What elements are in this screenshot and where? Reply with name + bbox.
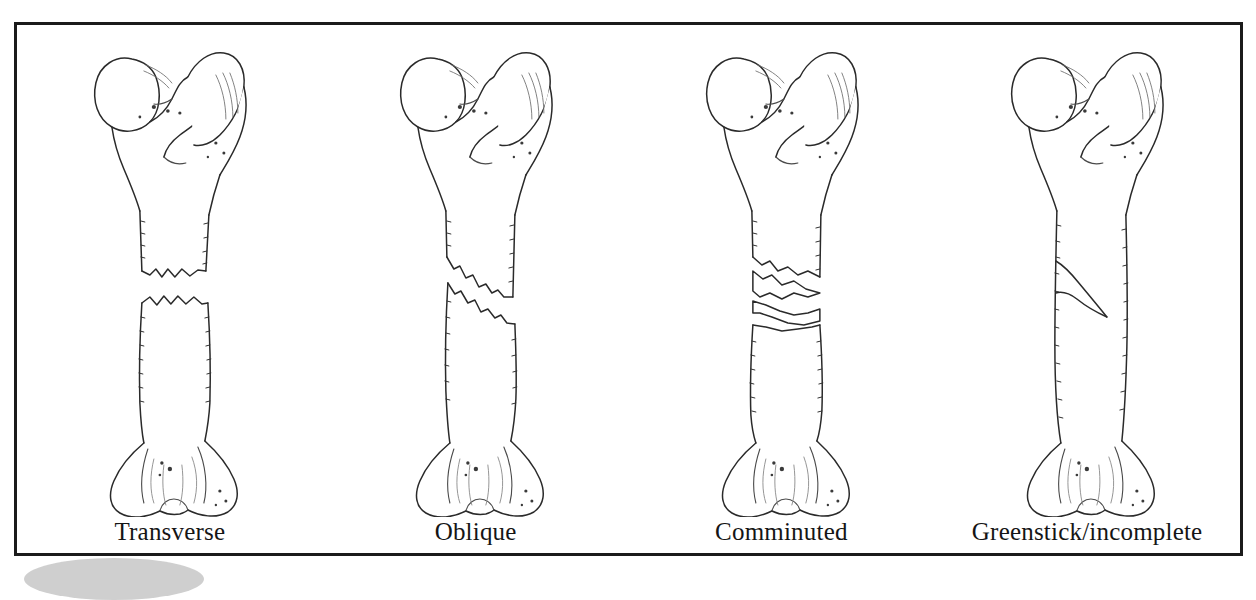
bone-fragment-wedge-lower (752, 301, 819, 325)
femur-shaft-lower-fragment (749, 325, 822, 443)
bone-fragment-wedge-upper (752, 271, 819, 299)
femur-shaft-upper-fragment (446, 211, 515, 297)
bone-row: Transverse (17, 25, 1240, 553)
femur-proximal-end (1012, 53, 1163, 215)
fracture-label-transverse: Transverse (17, 517, 323, 547)
greenstick-crack (1056, 261, 1107, 317)
bone-illustration-oblique (323, 25, 629, 517)
femur-shaft-upper-fragment (751, 211, 820, 277)
femur-proximal-end (400, 53, 551, 215)
bone-illustration-comminuted (629, 25, 935, 517)
fracture-panel-greenstick: Greenstick/incomplete (934, 25, 1240, 553)
femur-proximal-end (95, 53, 246, 215)
fracture-panel-comminuted: Comminuted (629, 25, 935, 553)
femur-shaft-lower-fragment (139, 296, 211, 443)
fracture-label-comminuted: Comminuted (629, 517, 935, 547)
bone-illustration-greenstick (934, 25, 1240, 517)
figure-frame: Transverse (14, 22, 1243, 556)
fracture-label-oblique: Oblique (323, 517, 629, 547)
bone-illustration-transverse (17, 25, 323, 517)
femur-shaft-lower-fragment (445, 283, 517, 443)
page-drop-shadow (24, 558, 204, 600)
femur-shaft-upper-fragment (140, 211, 209, 277)
femur-distal-end (722, 441, 849, 517)
fracture-label-greenstick: Greenstick/incomplete (934, 517, 1240, 547)
fracture-panel-transverse: Transverse (17, 25, 323, 553)
femur-distal-end (416, 441, 543, 517)
fracture-panel-oblique: Oblique (323, 25, 629, 553)
femur-shaft-intact (1055, 211, 1128, 443)
femur-distal-end (1028, 441, 1155, 517)
femur-distal-end (111, 441, 238, 517)
femur-proximal-end (706, 53, 857, 215)
